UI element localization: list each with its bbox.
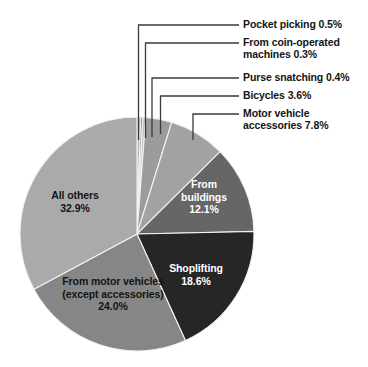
pie-chart-figure: Pocket picking 0.5% From coin-operated m… — [0, 0, 368, 367]
callout-coin-operated-machines: From coin-operated machines 0.3% — [243, 36, 340, 61]
callout-purse-snatching: Purse snatching 0.4% — [243, 71, 350, 83]
callout-pocket-picking: Pocket picking 0.5% — [243, 18, 342, 30]
pie-slices-group — [20, 117, 254, 351]
callout-bicycles: Bicycles 3.6% — [243, 89, 311, 101]
callout-motor-vehicle-accessories: Motor vehicle accessories 7.8% — [243, 107, 328, 132]
